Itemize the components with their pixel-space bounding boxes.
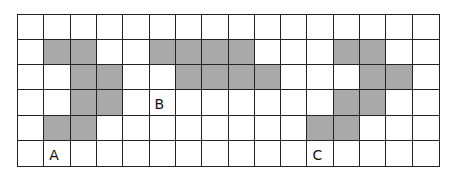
- grid-cell: [44, 90, 70, 115]
- grid-cell: [18, 15, 44, 40]
- grid-cell: [281, 15, 307, 40]
- shape-b-cell: [229, 40, 255, 65]
- grid-cell: [281, 65, 307, 90]
- grid-cell: [255, 116, 281, 141]
- grid-cell: [229, 141, 255, 166]
- grid-cell: [123, 40, 149, 65]
- grid-cell: [123, 90, 149, 115]
- shape-a-cell: [44, 116, 70, 141]
- grid-cell: [334, 15, 360, 40]
- shape-label: B: [155, 96, 165, 112]
- grid-cell: [97, 141, 123, 166]
- grid-cell: [176, 141, 202, 166]
- shape-b-cell: [202, 40, 228, 65]
- grid-cell: [176, 15, 202, 40]
- grid-cell: [176, 90, 202, 115]
- grid-cell: [360, 141, 386, 166]
- grid-cell: [413, 15, 439, 40]
- grid-cell: [97, 40, 123, 65]
- grid-cell: [307, 15, 333, 40]
- shape-a-cell: [44, 40, 70, 65]
- shape-a-cell: [71, 116, 97, 141]
- shape-b-cell: [176, 40, 202, 65]
- shape-a-cell: [97, 65, 123, 90]
- grid-cell: [202, 15, 228, 40]
- grid-cell: [150, 65, 176, 90]
- shape-c-cell: [334, 40, 360, 65]
- grid-cell: [255, 15, 281, 40]
- grid-cell: [281, 116, 307, 141]
- grid-cell: [386, 141, 412, 166]
- grid-cell: C: [307, 141, 333, 166]
- shape-c-cell: [386, 65, 412, 90]
- grid-cell: [176, 116, 202, 141]
- shape-c-cell: [307, 116, 333, 141]
- shape-a-cell: [71, 65, 97, 90]
- grid-cell: [360, 15, 386, 40]
- shape-c-cell: [334, 116, 360, 141]
- shape-b-cell: [202, 65, 228, 90]
- grid-cell: [18, 90, 44, 115]
- shape-c-cell: [360, 40, 386, 65]
- shape-c-cell: [360, 65, 386, 90]
- grid-cell: [334, 141, 360, 166]
- grid-cell: [334, 65, 360, 90]
- grid-cell: [18, 40, 44, 65]
- grid-cell: [18, 116, 44, 141]
- grid-cell: [150, 15, 176, 40]
- grid-cell: [281, 141, 307, 166]
- grid-cell: [71, 141, 97, 166]
- grid-cell: [386, 40, 412, 65]
- grid-cell: [386, 116, 412, 141]
- grid-cell: [413, 40, 439, 65]
- grid-cell: [360, 116, 386, 141]
- grid-cell: [97, 15, 123, 40]
- grid-cell: [150, 116, 176, 141]
- grid-cell: [44, 15, 70, 40]
- grid-cell: [202, 141, 228, 166]
- grid-cell: [229, 116, 255, 141]
- shape-b-cell: [255, 65, 281, 90]
- shape-b-cell: [150, 40, 176, 65]
- grid-cell: [413, 90, 439, 115]
- shape-a-cell: [71, 90, 97, 115]
- grid-cell: [123, 15, 149, 40]
- grid-cell: [150, 141, 176, 166]
- shape-b-cell: [229, 65, 255, 90]
- grid-cell: [413, 116, 439, 141]
- grid-cell: B: [150, 90, 176, 115]
- grid-cell: [229, 90, 255, 115]
- grid-cell: [413, 65, 439, 90]
- grid-cell: [386, 90, 412, 115]
- grid-cell: A: [44, 141, 70, 166]
- square-grid: BAC: [17, 14, 440, 167]
- shape-a-cell: [97, 90, 123, 115]
- grid-cell: [281, 40, 307, 65]
- grid-cell: [202, 90, 228, 115]
- grid-cell: [229, 15, 255, 40]
- grid-cell: [18, 141, 44, 166]
- grid-cell: [255, 141, 281, 166]
- shape-c-cell: [360, 90, 386, 115]
- grid-cell: [44, 65, 70, 90]
- grid-cell: [18, 65, 44, 90]
- grid-cell: [307, 40, 333, 65]
- grid-cell: [307, 90, 333, 115]
- grid-cell: [97, 116, 123, 141]
- grid-cell: [123, 116, 149, 141]
- grid-cell: [307, 65, 333, 90]
- grid-cell: [123, 141, 149, 166]
- grid-cell: [123, 65, 149, 90]
- grid-cell: [281, 90, 307, 115]
- grid-cell: [255, 40, 281, 65]
- grid-cell: [386, 15, 412, 40]
- shape-b-cell: [176, 65, 202, 90]
- shape-label: A: [49, 147, 59, 163]
- shape-a-cell: [71, 40, 97, 65]
- shape-c-cell: [334, 90, 360, 115]
- shape-label: C: [312, 147, 322, 163]
- grid-cell: [413, 141, 439, 166]
- grid-cell: [255, 90, 281, 115]
- grid-cell: [202, 116, 228, 141]
- grid-cell: [71, 15, 97, 40]
